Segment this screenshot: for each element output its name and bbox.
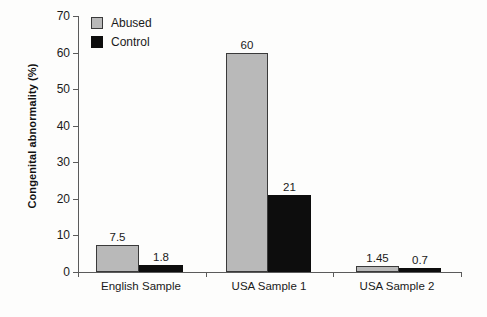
y-tick-mark <box>73 235 78 236</box>
y-axis-line <box>78 16 79 272</box>
y-tick-label: 50 <box>57 82 70 96</box>
y-axis-title: Congenital abnormality (%) <box>26 36 38 236</box>
y-tick-mark <box>73 199 78 200</box>
bar-value-label: 7.5 <box>110 231 126 243</box>
y-tick-label: 0 <box>63 265 70 279</box>
bar-control-usa-sample-2[interactable]: 0.7 <box>399 268 441 272</box>
bar-control-english-sample[interactable]: 1.8 <box>139 265 183 272</box>
bar-abused-usa-sample-2[interactable]: 1.45 <box>356 266 399 272</box>
y-tick-mark <box>73 162 78 163</box>
bar-abused-english-sample[interactable]: 7.5 <box>96 245 139 272</box>
x-tick-mark <box>206 272 207 277</box>
legend: Abused Control <box>91 13 152 51</box>
legend-swatch-icon <box>91 36 103 48</box>
x-axis-line <box>78 272 462 273</box>
bar-value-label: 1.8 <box>153 251 169 263</box>
y-tick-label: 10 <box>57 228 70 242</box>
legend-label: Abused <box>111 16 152 30</box>
legend-item-abused[interactable]: Abused <box>91 13 152 32</box>
x-tick-mark <box>78 272 79 277</box>
x-axis-category-label-2: USA Sample 2 <box>360 280 435 292</box>
y-tick-mark <box>73 89 78 90</box>
bar-abused-usa-sample-1[interactable]: 60 <box>226 53 268 272</box>
bar-value-label: 0.7 <box>412 254 428 266</box>
y-tick-label: 30 <box>57 155 70 169</box>
bar-value-label: 60 <box>241 39 254 51</box>
y-tick-label: 70 <box>57 9 70 23</box>
y-tick-label: 60 <box>57 46 70 60</box>
y-tick-mark <box>73 16 78 17</box>
y-tick-mark <box>73 53 78 54</box>
x-tick-mark <box>461 272 462 277</box>
x-tick-mark <box>333 272 334 277</box>
bar-value-label: 21 <box>283 181 296 193</box>
bar-value-label: 1.45 <box>366 252 388 264</box>
x-axis-category-label-0: English Sample <box>101 280 181 292</box>
y-tick-mark <box>73 126 78 127</box>
legend-item-control[interactable]: Control <box>91 32 152 51</box>
y-tick-label: 40 <box>57 119 70 133</box>
bar-chart-figure: Congenital abnormality (%) 0 10 20 30 40… <box>0 0 487 317</box>
y-tick-label: 20 <box>57 192 70 206</box>
plot-area: 0 10 20 30 40 50 60 70 <box>78 16 462 272</box>
x-axis-category-label-1: USA Sample 1 <box>232 280 307 292</box>
legend-label: Control <box>111 35 150 49</box>
bar-control-usa-sample-1[interactable]: 21 <box>268 195 311 272</box>
legend-swatch-icon <box>91 17 103 29</box>
